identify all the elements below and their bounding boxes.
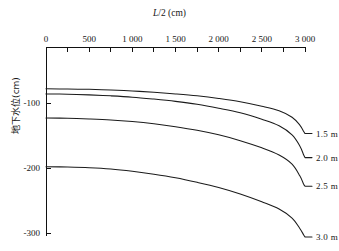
series-labels-group: 1.5 m2.0 m2.5 m3.0 m: [316, 129, 338, 242]
curve-2-0-m: [46, 94, 312, 158]
series-label-2-0-m: 2.0 m: [316, 153, 338, 163]
x-tick-label: 1 000: [122, 34, 143, 44]
y-axis-tick-labels: -100-200-300: [24, 98, 41, 238]
y-tick-label: -300: [24, 228, 41, 238]
curve-3-0-m: [46, 167, 312, 237]
data-curves-group: [46, 89, 312, 237]
x-tick-label: 3 000: [295, 34, 316, 44]
x-tick-label: 500: [82, 34, 96, 44]
series-label-1-5-m: 1.5 m: [316, 129, 338, 139]
x-tick-label: 0: [44, 34, 49, 44]
x-axis-ticks: [46, 47, 305, 52]
y-tick-label: -100: [24, 98, 41, 108]
series-label-3-0-m: 3.0 m: [316, 232, 338, 242]
groundwater-level-chart: L/2 (cm) 地下水位(cm) 05001 0001 5002 0002 5…: [0, 0, 339, 251]
x-tick-label: 1 500: [165, 34, 186, 44]
x-tick-label: 2 500: [252, 34, 273, 44]
x-tick-label: 2 000: [209, 34, 230, 44]
series-label-2-5-m: 2.5 m: [316, 181, 338, 191]
curve-2-5-m: [46, 118, 312, 186]
y-tick-label: -200: [24, 163, 41, 173]
x-axis-tick-labels: 05001 0001 5002 0002 5003 000: [44, 34, 316, 44]
y-axis-ticks: [46, 103, 51, 233]
plot-area: 05001 0001 5002 0002 5003 000 -100-200-3…: [0, 0, 339, 251]
axes-group: [46, 47, 305, 236]
